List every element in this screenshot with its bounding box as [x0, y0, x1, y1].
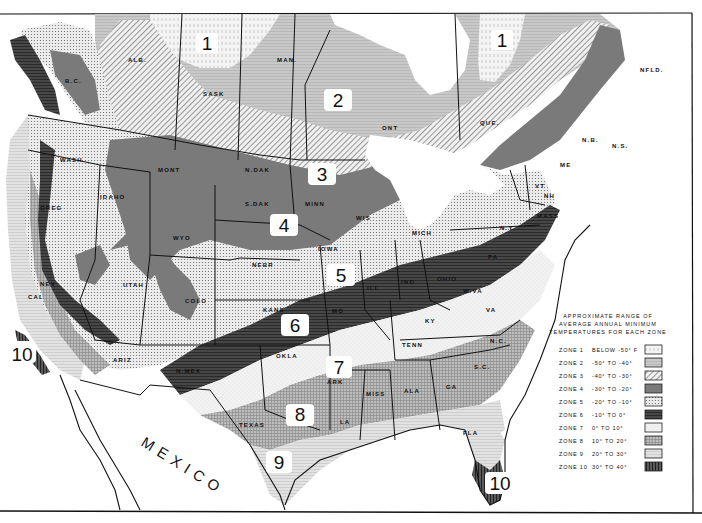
legend-row: ZONE 5-20° TO -10° [559, 397, 662, 406]
legend-zone-range: 0° TO 10° [592, 425, 623, 431]
label-sc: S.C. [474, 364, 490, 370]
legend-zone-range: -30° TO -20° [592, 386, 632, 392]
svg-text:9: 9 [274, 452, 285, 473]
svg-text:8: 8 [295, 404, 306, 425]
legend-swatch-horizontal-lines-light [645, 358, 662, 367]
label-ga: GA [446, 384, 457, 390]
label-mont: MONT [158, 167, 180, 173]
legend-swatch-vertical-lines-dark [645, 462, 662, 471]
legend-zone-label: ZONE 2 [559, 360, 584, 366]
label-pa: PA [488, 254, 498, 260]
legend-zone-range: -20° TO -10° [592, 399, 632, 405]
legend-zone-label: ZONE 7 [559, 425, 584, 431]
zone-badge: 3 [308, 163, 336, 185]
legend-row: ZONE 4-30° TO -20° [559, 384, 662, 393]
label-que: QUE. [480, 120, 499, 126]
label-sdak: S.DAK [245, 201, 270, 207]
zone-badge: 4 [270, 214, 298, 236]
label-ndak: N.DAK [245, 167, 270, 173]
label-minn: MINN [305, 201, 325, 207]
label-sask: SASK [203, 91, 224, 97]
label-me: ME [560, 162, 571, 168]
legend-row: ZONE 3-40° TO -30° [559, 371, 662, 380]
svg-text:10: 10 [11, 344, 32, 365]
country-label-mexico: MEXICO [138, 433, 228, 498]
zone-badge: 2 [324, 89, 352, 111]
legend-row: ZONE 810° TO 20° [559, 436, 662, 445]
hardiness-zone-map: ALB. SASK MAN. ONT QUE. NFLD. B.C. WASH … [0, 0, 702, 523]
legend-swatch-vertical-dash-light [645, 345, 662, 354]
label-ont: ONT [382, 125, 398, 131]
legend-title-line: TEMPERATURES FOR EACH ZONE [549, 329, 667, 335]
legend-swatch-dots [645, 397, 662, 406]
legend-swatch-crosshatch [645, 436, 662, 445]
svg-text:7: 7 [334, 357, 345, 378]
zone-badge: 9 [266, 451, 292, 473]
map-frame-top [0, 13, 692, 14]
legend-zone-range: BELOW -50° F [592, 347, 638, 353]
legend-zone-range: -50° TO -40° [592, 360, 632, 366]
label-colo: COLO [185, 298, 207, 304]
label-mich: MICH [412, 230, 432, 236]
zone-badge: 5 [327, 264, 355, 286]
label-texas: TEXAS [239, 422, 265, 428]
label-nfld: NFLD. [640, 67, 664, 73]
label-vt: VT [535, 183, 545, 189]
legend-zone-label: ZONE 8 [559, 438, 584, 444]
label-man: MAN. [277, 57, 297, 63]
svg-text:3: 3 [317, 164, 328, 185]
label-oreg: OREG [40, 205, 62, 211]
label-nb: N.B. [582, 137, 599, 143]
svg-text:6: 6 [290, 315, 301, 336]
label-idaho: IDAHO [100, 194, 125, 200]
label-nev: NEV [40, 281, 56, 287]
legend-zone-range: -10° TO 0° [592, 412, 626, 418]
legend-zone-label: ZONE 10 [559, 464, 588, 470]
legend-zone-label: ZONE 5 [559, 399, 584, 405]
label-nh: NH [544, 193, 555, 199]
label-ariz: ARIZ [113, 357, 132, 363]
label-miss: MISS [366, 391, 385, 397]
legend-zone-range: -40° TO -30° [592, 373, 632, 379]
svg-text:1: 1 [497, 30, 508, 51]
legend-row: ZONE 1BELOW -50° F [559, 345, 662, 354]
label-ohio: OHIO [437, 276, 457, 282]
legend-zone-range: 30° TO 40° [592, 464, 627, 470]
label-alb: ALB. [128, 57, 147, 63]
zone-badge: 8 [286, 404, 314, 427]
legend-row: ZONE 1030° TO 40° [559, 462, 662, 471]
zone-badge: 7 [326, 356, 352, 378]
legend-zone-label: ZONE 1 [559, 347, 584, 353]
map-frame-right [692, 13, 693, 513]
label-ill: ILL [367, 285, 380, 291]
legend-title-line: AVERAGE ANNUAL MINIMUM [559, 321, 657, 327]
svg-text:2: 2 [333, 90, 344, 111]
label-nc: N.C. [490, 338, 507, 344]
label-mass: MASS [537, 213, 559, 219]
legend-zone-label: ZONE 6 [559, 412, 584, 418]
label-ny: N.Y. [500, 225, 516, 231]
svg-text:1: 1 [202, 33, 213, 54]
label-wis: WIS [356, 215, 371, 221]
zone-badge: 6 [281, 314, 309, 336]
legend-swatch-horizontal-lines-fine [645, 449, 662, 458]
label-fla: FLA [463, 430, 478, 436]
label-kans: KANS [263, 307, 285, 313]
label-ala: ALA [404, 388, 420, 394]
legend-swatch-light-stipple [645, 423, 662, 432]
label-nebr: NEBR [252, 262, 274, 268]
legend-row: ZONE 920° TO 30° [559, 449, 662, 458]
zone-badge: 1 [491, 30, 513, 51]
legend-title-line: APPROXIMATE RANGE OF [563, 313, 653, 319]
label-utah: UTAH [123, 282, 144, 288]
legend-zone-label: ZONE 4 [559, 386, 584, 392]
map-frame-bottom [0, 511, 702, 513]
legend-row: ZONE 6-10° TO 0° [559, 410, 662, 419]
label-bc: B.C. [65, 78, 82, 84]
zone-badge: 1 [196, 33, 218, 54]
legend-zone-label: ZONE 3 [559, 373, 584, 379]
legend-zone-range: 10° TO 20° [592, 438, 627, 444]
legend: APPROXIMATE RANGE OF AVERAGE ANNUAL MINI… [549, 313, 667, 471]
label-nmex: N.MEX [176, 368, 201, 374]
label-wva: W.VA [463, 288, 483, 294]
